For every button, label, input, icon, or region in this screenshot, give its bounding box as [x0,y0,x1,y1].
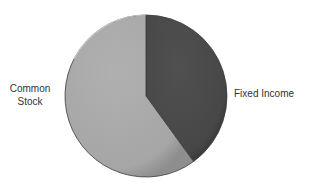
label-common-stock: Common Stock [4,82,56,108]
label-common-stock-line1: Common [4,82,56,95]
label-common-stock-line2: Stock [4,95,56,108]
label-fixed-income: Fixed Income [234,87,294,100]
